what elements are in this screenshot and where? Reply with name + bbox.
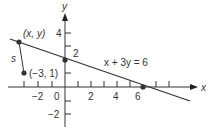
x-tick-label-2: 2 bbox=[88, 91, 94, 102]
distance-segment: s bbox=[11, 42, 24, 73]
segment-label: s bbox=[11, 53, 16, 64]
x-tick-label-neg2: −2 bbox=[32, 91, 44, 102]
y-axis-label: y bbox=[61, 1, 68, 12]
y-tick-label-2: 2 bbox=[73, 48, 79, 59]
x-axis-label: x bbox=[200, 82, 207, 93]
y-tick-label-4: 4 bbox=[56, 28, 62, 39]
x-tick-label-6: 6 bbox=[135, 91, 141, 102]
point-xy-label: (x, y) bbox=[23, 28, 45, 39]
coordinate-diagram: x −2 0 2 4 6 y 4 2 bbox=[0, 0, 208, 134]
point-xy: (x, y) bbox=[16, 28, 45, 45]
x-axis: x −2 0 2 4 6 bbox=[8, 81, 207, 102]
y-intercept-point bbox=[62, 57, 67, 62]
point-neg3-1-label: (−3, 1) bbox=[29, 68, 58, 79]
point-neg3-1: (−3, 1) bbox=[21, 68, 58, 79]
x-tick-label-4: 4 bbox=[113, 91, 119, 102]
x-intercept-point bbox=[140, 84, 145, 89]
x-tick-label-0: 0 bbox=[54, 91, 60, 102]
line-equation-label: x + 3y = 6 bbox=[104, 57, 148, 68]
y-tick-label-neg2: −2 bbox=[48, 109, 60, 120]
y-axis: y 4 2 −2 bbox=[48, 1, 79, 127]
y-axis-arrow-icon bbox=[62, 13, 68, 21]
x-axis-arrow-icon bbox=[190, 84, 198, 90]
